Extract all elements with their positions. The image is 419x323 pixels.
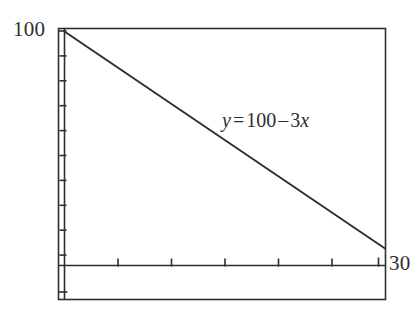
equation-equals-sign: =	[231, 109, 246, 131]
y-axis-max-label: 100	[13, 19, 45, 40]
equation-intercept: 100	[246, 109, 276, 131]
figure-container: 100 30 y=100–3x	[0, 0, 419, 323]
equation-lhs-variable: y	[222, 109, 231, 131]
equation-slope-coefficient: 3	[290, 109, 300, 131]
x-axis-max-label: 30	[389, 253, 410, 274]
plot-frame	[59, 29, 386, 300]
plot-canvas	[0, 0, 419, 323]
equation-annotation: y=100–3x	[222, 110, 309, 130]
equation-minus-sign: –	[276, 109, 290, 131]
equation-rhs-variable: x	[300, 109, 309, 131]
